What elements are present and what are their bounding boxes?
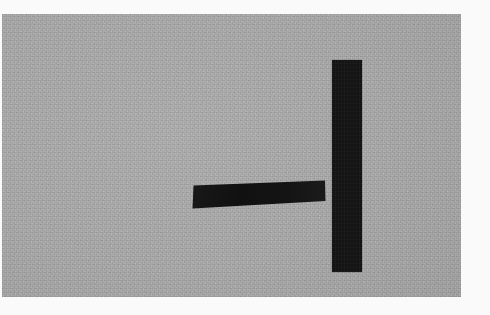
image-canvas: [0, 0, 490, 315]
gray-background-panel: [2, 14, 461, 297]
vertical-stroke-grain: [332, 60, 362, 272]
vertical-stroke: [332, 60, 362, 272]
